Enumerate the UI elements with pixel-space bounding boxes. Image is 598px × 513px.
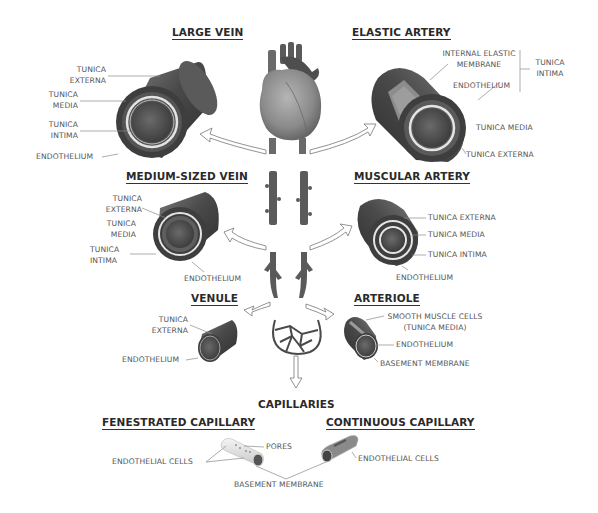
heading-muscular-artery: MUSCULAR ARTERY bbox=[354, 170, 470, 184]
muscular-artery-illustration bbox=[358, 199, 419, 266]
label-large-vein-tunica-media: TUNICA MEDIA bbox=[32, 90, 78, 111]
heading-fenestrated-capillary: FENESTRATED CAPILLARY bbox=[102, 416, 255, 430]
label-muscular-tunica-externa: TUNICA EXTERNA bbox=[428, 213, 496, 224]
label-elastic-tunica-externa: TUNICA EXTERNA bbox=[466, 150, 534, 161]
label-line: MEDIA bbox=[32, 101, 78, 112]
label-medium-vein-tunica-externa: TUNICA EXTERNA bbox=[96, 194, 142, 215]
label-line: EXTERNA bbox=[96, 205, 142, 216]
heart-illustration bbox=[260, 42, 321, 154]
label-large-vein-endothelium: ENDOTHELIUM bbox=[36, 152, 93, 163]
label-elastic-endothelium: ENDOTHELIUM bbox=[453, 81, 510, 92]
label-line: EXTERNA bbox=[60, 76, 106, 87]
label-line: TUNICA bbox=[32, 120, 78, 131]
venule-illustration bbox=[198, 320, 237, 362]
label-venule-tunica-externa: TUNICA EXTERNA bbox=[142, 315, 188, 336]
label-line: SMOOTH MUSCLE CELLS bbox=[384, 312, 486, 323]
fenestrated-capillary-illustration bbox=[221, 438, 264, 466]
label-line: TUNICA bbox=[96, 194, 142, 205]
label-muscular-tunica-intima: TUNICA INTIMA bbox=[428, 250, 487, 261]
label-internal-elastic-membrane: INTERNAL ELASTIC MEMBRANE bbox=[438, 49, 520, 70]
label-line: INTIMA bbox=[90, 256, 119, 267]
label-large-vein-tunica-intima: TUNICA INTIMA bbox=[32, 120, 78, 141]
label-tunica-intima-group: TUNICA INTIMA bbox=[530, 58, 570, 79]
label-pores: PORES bbox=[266, 442, 292, 453]
label-line: TUNICA bbox=[90, 219, 136, 230]
heading-medium-sized-vein: MEDIUM-SIZED VEIN bbox=[126, 170, 248, 184]
label-muscular-tunica-media: TUNICA MEDIA bbox=[428, 230, 485, 241]
label-elastic-tunica-media: TUNICA MEDIA bbox=[476, 123, 533, 134]
label-medium-vein-tunica-intima: TUNICA INTIMA bbox=[90, 245, 119, 266]
heading-arteriole: ARTERIOLE bbox=[354, 292, 420, 306]
label-muscular-endothelium: ENDOTHELIUM bbox=[396, 273, 453, 284]
label-line: TUNICA bbox=[142, 315, 188, 326]
heading-large-vein: LARGE VEIN bbox=[172, 26, 243, 40]
arteriole-illustration bbox=[344, 317, 378, 360]
label-arteriole-endothelium: ENDOTHELIUM bbox=[396, 340, 453, 351]
label-line: (TUNICA MEDIA) bbox=[384, 323, 486, 334]
label-capillary-basement-membrane: BASEMENT MEMBRANE bbox=[234, 480, 324, 491]
label-line: TUNICA bbox=[90, 245, 119, 256]
label-medium-vein-tunica-media: TUNICA MEDIA bbox=[90, 219, 136, 240]
descending-vessels bbox=[264, 171, 313, 298]
heading-continuous-capillary: CONTINUOUS CAPILLARY bbox=[326, 416, 475, 430]
medium-vein-illustration bbox=[153, 192, 219, 261]
label-venule-endothelium: ENDOTHELIUM bbox=[122, 355, 179, 366]
large-vein-illustration bbox=[116, 55, 225, 158]
heading-capillaries: CAPILLARIES bbox=[258, 398, 335, 411]
heading-venule: VENULE bbox=[191, 292, 238, 306]
label-line: INTIMA bbox=[530, 69, 570, 80]
label-line: TUNICA bbox=[60, 65, 106, 76]
capillary-bed-icon bbox=[273, 320, 321, 354]
blood-vessel-diagram: LARGE VEIN ELASTIC ARTERY MEDIUM-SIZED V… bbox=[0, 0, 598, 513]
label-fenestrated-endothelial-cells: ENDOTHELIAL CELLS bbox=[112, 457, 193, 468]
label-medium-vein-endothelium: ENDOTHELIUM bbox=[184, 274, 241, 285]
label-smooth-muscle-cells: SMOOTH MUSCLE CELLS (TUNICA MEDIA) bbox=[384, 312, 486, 333]
heading-elastic-artery: ELASTIC ARTERY bbox=[352, 26, 451, 40]
continuous-capillary-illustration bbox=[322, 436, 358, 463]
label-line: TUNICA bbox=[530, 58, 570, 69]
label-line: EXTERNA bbox=[142, 326, 188, 337]
label-line: TUNICA bbox=[32, 90, 78, 101]
label-large-vein-tunica-externa: TUNICA EXTERNA bbox=[60, 65, 106, 86]
elastic-artery-illustration bbox=[371, 68, 466, 162]
label-line: MEMBRANE bbox=[438, 60, 520, 71]
label-line: MEDIA bbox=[90, 230, 136, 241]
label-continuous-endothelial-cells: ENDOTHELIAL CELLS bbox=[358, 454, 439, 465]
label-line: INTERNAL ELASTIC bbox=[438, 49, 520, 60]
label-arteriole-basement-membrane: BASEMENT MEMBRANE bbox=[380, 359, 470, 370]
label-line: INTIMA bbox=[32, 131, 78, 142]
